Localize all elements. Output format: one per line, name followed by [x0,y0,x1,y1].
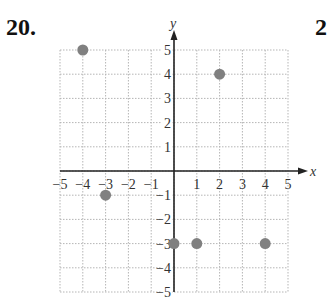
data-point [260,238,271,249]
data-point [169,238,180,249]
svg-text:−1: −1 [156,188,171,203]
svg-text:−2: −2 [121,177,136,192]
svg-text:−5: −5 [156,285,171,300]
svg-text:1: 1 [193,177,200,192]
data-point [214,69,225,80]
svg-text:5: 5 [285,177,292,192]
svg-text:4: 4 [164,67,171,82]
svg-text:x: x [309,164,317,179]
svg-text:1: 1 [164,140,171,155]
svg-text:−4: −4 [156,261,171,276]
svg-text:−4: −4 [75,177,90,192]
svg-text:2: 2 [216,177,223,192]
scatter-plot: xy −5−4−3−2−112345−5−4−3−2−112345 [0,0,329,302]
data-point [191,238,202,249]
svg-text:−5: −5 [53,177,68,192]
svg-text:2: 2 [164,116,171,131]
svg-text:4: 4 [262,177,269,192]
data-point [77,45,88,56]
svg-text:y: y [168,16,177,31]
svg-text:5: 5 [164,43,171,58]
data-point [100,190,111,201]
svg-text:−2: −2 [156,212,171,227]
axes: xy [60,16,317,292]
svg-text:3: 3 [239,177,246,192]
svg-text:3: 3 [164,91,171,106]
